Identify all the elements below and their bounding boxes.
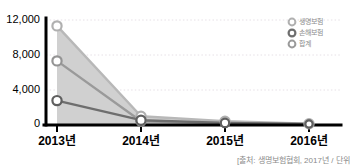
y-axis-labels: 12,000 8,000 4,000 0 [6,13,40,129]
data-point [136,116,145,125]
legend-label: 합계 [299,39,311,48]
xtick-label: 2016년 [290,134,328,148]
legend: 생명보험 손해보험 합계 [289,17,323,48]
legend-label: 생명보험 [299,17,323,25]
ytick-label: 12,000 [6,13,40,25]
xtick-label: 2013년 [38,134,76,148]
legend-marker-icon [289,30,296,37]
data-point [52,21,61,30]
ytick-label: 4,000 [12,83,40,95]
data-point [52,96,61,105]
line-chart: 12,000 8,000 4,000 0 2013년 2014년 2015년 2… [0,0,351,166]
legend-item-0[interactable]: 생명보험 [289,17,323,26]
data-point [305,120,312,127]
ytick-label: 8,000 [12,48,40,60]
legend-label: 손해보험 [299,28,323,37]
chart-container: 12,000 8,000 4,000 0 2013년 2014년 2015년 2… [0,0,351,166]
source-note: [출처: 생명보험협회, 2017년 / 단위 [237,155,350,165]
legend-item-1[interactable]: 손해보험 [289,28,323,37]
data-point [221,119,229,127]
legend-marker-icon [289,41,296,48]
xtick-label: 2014년 [122,134,160,148]
data-point [52,56,61,65]
x-axis-labels: 2013년 2014년 2015년 2016년 [38,134,328,148]
legend-marker-icon [289,19,296,26]
xtick-label: 2015년 [206,134,244,148]
ytick-label: 0 [34,117,40,129]
legend-item-2[interactable]: 합계 [289,39,311,48]
